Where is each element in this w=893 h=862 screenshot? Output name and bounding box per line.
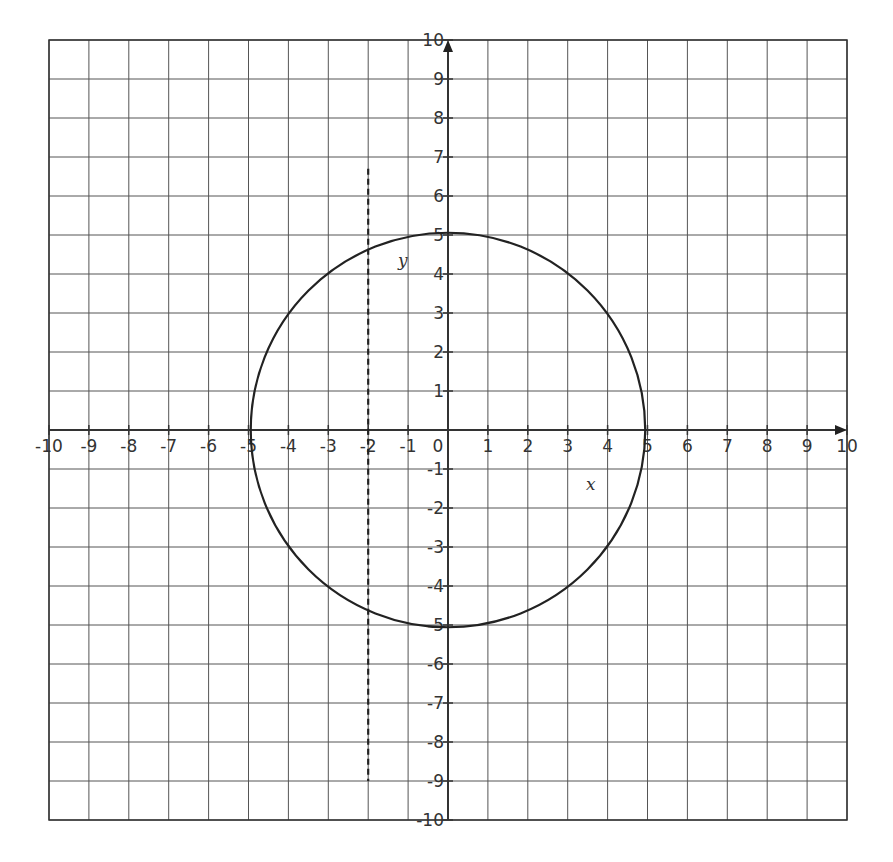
y-tick-label: 9	[433, 69, 444, 89]
y-tick-label: 10	[422, 30, 444, 50]
coordinate-plane: -10-9-8-7-6-5-4-3-2-10123456789101098765…	[0, 0, 893, 862]
x-tick-label: -10	[35, 436, 63, 456]
x-tick-label: 6	[682, 436, 693, 456]
x-tick-label: 7	[722, 436, 733, 456]
y-tick-label: -10	[416, 810, 444, 830]
x-tick-label: -9	[80, 436, 97, 456]
y-tick-label: 5	[433, 225, 444, 245]
x-tick-label: -1	[400, 436, 417, 456]
y-tick-label: 3	[433, 303, 444, 323]
x-tick-label: -5	[240, 436, 257, 456]
x-tick-label: -8	[120, 436, 137, 456]
x-tick-label: -6	[200, 436, 217, 456]
y-axis-arrow-icon	[443, 40, 453, 52]
y-tick-label: -4	[427, 576, 444, 596]
x-tick-label: 10	[836, 436, 858, 456]
y-tick-label: -1	[427, 459, 444, 479]
y-axis-label: y	[397, 250, 408, 270]
y-tick-label: 7	[433, 147, 444, 167]
y-tick-label: -9	[427, 771, 444, 791]
x-tick-label: 0	[433, 436, 444, 456]
x-tick-label: 8	[762, 436, 773, 456]
y-tick-label: -6	[427, 654, 444, 674]
y-tick-label: -8	[427, 732, 444, 752]
y-tick-label: -3	[427, 537, 444, 557]
x-axis-label: x	[586, 474, 596, 494]
x-tick-label: 9	[802, 436, 813, 456]
y-tick-label: -7	[427, 693, 444, 713]
x-tick-label: 1	[482, 436, 493, 456]
y-tick-label: 2	[433, 342, 444, 362]
y-tick-label: 1	[433, 381, 444, 401]
x-tick-label: -7	[160, 436, 177, 456]
x-tick-label: 4	[602, 436, 613, 456]
x-axis-arrow-icon	[835, 425, 847, 435]
y-tick-label: 8	[433, 108, 444, 128]
y-tick-label: 4	[433, 264, 444, 284]
x-tick-label: -4	[280, 436, 297, 456]
y-tick-label: -2	[427, 498, 444, 518]
x-tick-label: -3	[320, 436, 337, 456]
x-tick-label: 2	[522, 436, 533, 456]
y-tick-label: 6	[433, 186, 444, 206]
y-tick-label: -5	[427, 615, 444, 635]
x-tick-label: 3	[562, 436, 573, 456]
